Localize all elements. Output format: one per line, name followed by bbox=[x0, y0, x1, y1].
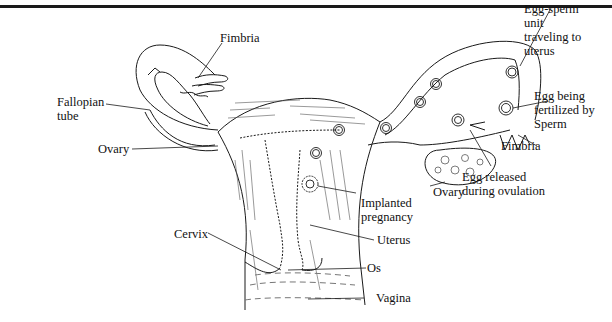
label-fimbria-right: Fimbria bbox=[501, 139, 541, 153]
reproductive-system-illustration bbox=[0, 0, 612, 322]
label-implanted-pregnancy: Implanted pregnancy bbox=[361, 196, 413, 224]
label-ovary-right: Ovary bbox=[433, 185, 464, 199]
label-egg-released: Egg released during ovulation bbox=[462, 170, 545, 198]
label-fallopian-tube: Fallopian tube bbox=[57, 95, 104, 123]
right-fallopian-tube bbox=[368, 41, 541, 150]
label-fimbria-left: Fimbria bbox=[220, 31, 260, 45]
label-os: Os bbox=[367, 261, 381, 275]
label-egg-sperm-unit: Egg-sperm unit traveling to uterus bbox=[524, 2, 581, 58]
leader-lines bbox=[106, 8, 551, 299]
label-cervix: Cervix bbox=[174, 227, 208, 241]
label-vagina: Vagina bbox=[376, 291, 411, 305]
label-uterus: Uterus bbox=[377, 233, 410, 247]
cervix-vagina bbox=[245, 258, 365, 300]
label-ovary-left: Ovary bbox=[98, 142, 129, 156]
left-fallopian-tube bbox=[136, 45, 228, 151]
label-egg-fertilized: Egg being fertilized by Sperm bbox=[534, 89, 595, 131]
uterus-body bbox=[218, 98, 380, 310]
